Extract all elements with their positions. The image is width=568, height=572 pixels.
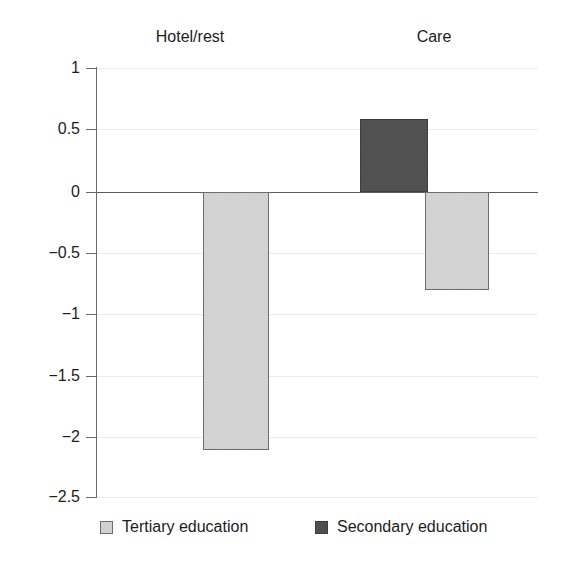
bar-chart-figure: Hotel/rest Care 1 0.5 0 −0.5 −1 −1.5 −2 … xyxy=(0,0,568,572)
bar-hotel-rest-tertiary xyxy=(203,192,269,450)
y-tick-label-0-5: 0.5 xyxy=(58,121,80,137)
y-tick-mark-0 xyxy=(86,192,97,193)
legend-swatch-secondary-icon xyxy=(315,521,328,534)
legend-label-secondary: Secondary education xyxy=(337,518,487,536)
y-tick-mark-0-5 xyxy=(86,129,97,130)
y-tick-mark-n1-5 xyxy=(86,376,97,377)
y-tick-mark-n2 xyxy=(86,437,97,438)
category-label-care: Care xyxy=(417,28,452,46)
gridline-n1-5 xyxy=(97,376,538,377)
y-tick-mark-n1 xyxy=(86,314,97,315)
y-tick-label-1: 1 xyxy=(71,60,80,76)
category-label-hotel-rest: Hotel/rest xyxy=(156,28,224,46)
gridline-n2-5 xyxy=(97,497,538,498)
legend-swatch-tertiary-icon xyxy=(100,521,113,534)
gridline-n2 xyxy=(97,437,538,438)
gridline-n1 xyxy=(97,314,538,315)
bar-care-secondary xyxy=(360,119,428,192)
y-tick-label-n1-5: −1.5 xyxy=(48,368,80,384)
y-tick-mark-n2-5 xyxy=(86,497,97,498)
y-tick-label-0: 0 xyxy=(71,184,80,200)
plot-area xyxy=(97,68,538,497)
gridline-1 xyxy=(97,68,538,69)
legend-item-tertiary-education: Tertiary education xyxy=(100,516,248,538)
y-tick-label-n2-5: −2.5 xyxy=(48,489,80,505)
gridline-0-5 xyxy=(97,129,538,130)
y-tick-mark-1 xyxy=(86,68,97,69)
chart-legend: Tertiary education Secondary education xyxy=(97,516,538,546)
y-tick-label-n2: −2 xyxy=(62,429,80,445)
y-tick-label-n0-5: −0.5 xyxy=(48,245,80,261)
bar-care-tertiary xyxy=(425,192,489,290)
legend-label-tertiary: Tertiary education xyxy=(122,518,248,536)
y-tick-label-n1: −1 xyxy=(62,306,80,322)
legend-item-secondary-education: Secondary education xyxy=(315,516,487,538)
y-tick-mark-n0-5 xyxy=(86,253,97,254)
